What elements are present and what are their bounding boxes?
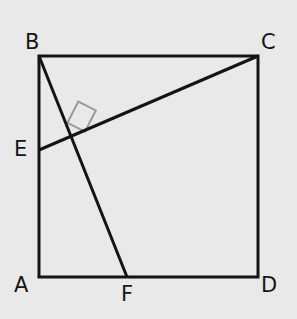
segment-ec: [39, 56, 258, 150]
vertex-label-f: F: [121, 284, 133, 305]
vertex-label-b: B: [25, 32, 39, 53]
vertex-label-d: D: [261, 275, 277, 296]
vertex-label-c: C: [261, 32, 276, 53]
geometry-canvas: [0, 0, 297, 319]
geometry-figure: B C E A F D: [0, 0, 297, 319]
square-abcd-outline: [39, 56, 258, 277]
vertex-label-e: E: [14, 139, 27, 160]
vertex-label-a: A: [14, 275, 28, 296]
segment-bf: [39, 56, 127, 277]
